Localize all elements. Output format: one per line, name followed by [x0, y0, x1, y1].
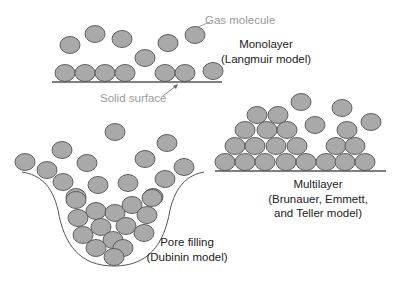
gas-molecule-icon — [86, 240, 106, 257]
gas-molecule-icon — [60, 37, 80, 54]
monolayer-label: Monolayer (Langmuir model) — [216, 37, 316, 66]
gas-molecule-icon — [277, 122, 297, 139]
gas-molecule-icon — [86, 203, 106, 220]
gas-molecule-icon — [361, 114, 381, 131]
gas-molecule-icon — [137, 207, 157, 224]
gas-molecule-icon — [332, 100, 352, 117]
monolayer-title: Monolayer — [216, 37, 316, 52]
gas-molecule-label: Gas molecule — [205, 13, 275, 28]
gas-molecule-icon — [142, 190, 162, 207]
gas-molecule-icon — [355, 154, 375, 171]
gas-molecule-icon — [247, 107, 267, 124]
pore-filling-subtitle: (Dubinin model) — [142, 250, 232, 265]
molecules — [15, 26, 381, 266]
gas-molecule-icon — [66, 192, 86, 209]
gas-molecule-icon — [77, 155, 97, 172]
gas-molecule-icon — [155, 171, 175, 188]
gas-molecule-icon — [37, 162, 57, 179]
gas-molecule-icon — [296, 154, 316, 171]
gas-molecule-icon — [88, 177, 108, 194]
gas-molecule-icon — [345, 138, 365, 155]
gas-molecule-icon — [335, 154, 355, 171]
gas-molecule-icon — [85, 26, 105, 43]
gas-molecule-icon — [255, 154, 275, 171]
multilayer-subtitle-2: and Teller model) — [263, 206, 373, 221]
gas-molecule-icon — [185, 27, 205, 44]
gas-molecule-icon — [245, 138, 265, 155]
gas-molecule-icon — [276, 154, 296, 171]
gas-molecule-icon — [337, 122, 357, 139]
gas-molecule-icon — [225, 138, 245, 155]
gas-molecule-icon — [316, 154, 336, 171]
gas-molecule-icon — [215, 154, 235, 171]
multilayer-subtitle-1: (Brunauer, Emmett, — [263, 192, 373, 207]
gas-molecule-icon — [55, 65, 75, 82]
gas-molecule-icon — [15, 154, 35, 171]
gas-molecule-icon — [115, 65, 135, 82]
gas-molecule-icon — [266, 138, 286, 155]
gas-molecule-icon — [257, 122, 277, 139]
gas-molecule-icon — [235, 154, 255, 171]
gas-molecule-icon — [104, 249, 124, 266]
solid-surface-label: Solid surface — [100, 91, 166, 106]
multilayer-label: Multilayer (Brunauer, Emmett, and Teller… — [263, 177, 373, 221]
gas-molecule-icon — [287, 138, 307, 155]
monolayer-subtitle: (Langmuir model) — [216, 52, 316, 67]
gas-molecule-icon — [326, 138, 346, 155]
gas-molecule-icon — [157, 135, 177, 152]
gas-molecule-icon — [291, 94, 311, 111]
gas-molecule-icon — [95, 65, 115, 82]
gas-molecule-icon — [158, 35, 178, 52]
pore-filling-title: Pore filling — [142, 235, 232, 250]
gas-molecule-icon — [118, 175, 138, 192]
multilayer-title: Multilayer — [263, 177, 373, 192]
gas-molecule-icon — [155, 65, 175, 82]
gas-molecule-icon — [116, 218, 136, 235]
gas-molecule-icon — [305, 117, 325, 134]
gas-molecule-icon — [135, 151, 155, 168]
gas-molecule-icon — [53, 174, 73, 191]
gas-molecule-icon — [235, 122, 255, 139]
gas-molecule-icon — [52, 142, 72, 159]
gas-molecule-icon — [75, 65, 95, 82]
arrowhead-icon — [173, 84, 178, 89]
gas-molecule-icon — [112, 31, 132, 48]
gas-molecule-icon — [105, 124, 125, 141]
gas-molecule-icon — [135, 50, 155, 67]
gas-molecule-icon — [68, 210, 88, 227]
gas-molecule-icon — [175, 65, 195, 82]
gas-molecule-icon — [268, 107, 288, 124]
pore-filling-label: Pore filling (Dubinin model) — [142, 235, 232, 264]
gas-molecule-icon — [174, 159, 194, 176]
